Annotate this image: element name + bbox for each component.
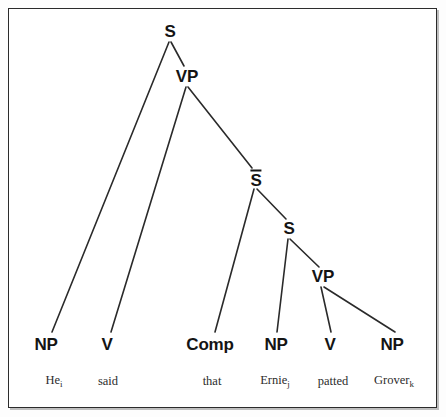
syntax-tree-figure: SVPSSVPNPVCompNPVNP HeisaidthatErniejpat…	[0, 0, 446, 417]
tree-node-label: S	[250, 172, 261, 189]
tree-node-np1: NP	[34, 335, 57, 355]
terminal-word-text: Grover	[374, 373, 409, 387]
terminal-word-text: patted	[318, 374, 349, 388]
tree-node-v2: V	[324, 335, 335, 355]
tree-node-v1: V	[101, 335, 112, 355]
tree-node-label: V	[101, 335, 112, 354]
tree-node-label: S	[164, 22, 175, 41]
terminal-word-that: that	[203, 374, 222, 389]
tree-node-comp: Comp	[186, 335, 233, 355]
tree-node-label: VP	[176, 67, 198, 86]
terminal-word-text: Ernie	[260, 373, 287, 387]
terminal-word-text: that	[203, 374, 222, 388]
tree-node-label: Comp	[186, 335, 233, 354]
terminal-word-index: j	[287, 379, 290, 389]
tree-node-np3: NP	[380, 335, 403, 355]
terminal-word-index: k	[409, 379, 414, 389]
tree-node-vp2: VP	[312, 267, 334, 287]
tree-node-sbar: S	[250, 170, 261, 189]
tree-node-s1: S	[164, 22, 175, 42]
tree-node-s2: S	[283, 219, 294, 239]
terminal-word-index: i	[60, 379, 63, 389]
terminal-word-text: He	[45, 373, 60, 387]
tree-node-label: V	[324, 335, 335, 354]
tree-node-label: NP	[380, 335, 403, 354]
tree-node-label: NP	[264, 335, 287, 354]
terminal-word-ernie: Erniej	[260, 373, 290, 389]
terminal-word-he: Hei	[45, 373, 62, 389]
terminal-word-said: said	[98, 374, 118, 389]
tree-node-label: VP	[312, 267, 334, 286]
tree-node-label: S	[283, 219, 294, 238]
tree-node-vp1: VP	[176, 67, 198, 87]
tree-node-label: NP	[34, 335, 57, 354]
tree-node-np2: NP	[264, 335, 287, 355]
terminal-word-patted: patted	[318, 374, 349, 389]
terminal-word-text: said	[98, 374, 118, 388]
terminal-word-grover: Groverk	[374, 373, 414, 389]
